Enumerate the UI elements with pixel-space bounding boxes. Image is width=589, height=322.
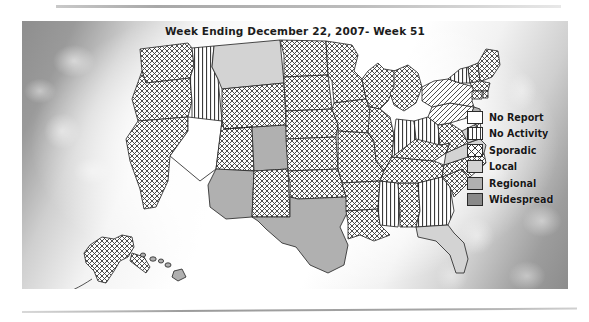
state-CT <box>472 91 482 99</box>
legend-label-regional: Regional <box>489 178 536 189</box>
state-ME <box>478 49 500 81</box>
legend-swatch-no-report <box>467 111 483 124</box>
state-WI <box>362 63 396 109</box>
influenza-activity-figure: Week Ending December 22, 2007- Week 51 <box>22 21 568 289</box>
state-AR <box>342 181 380 211</box>
state-AK-panhandle <box>130 253 150 273</box>
legend-item-local[interactable]: Local <box>467 159 553 176</box>
state-MS <box>378 181 400 227</box>
legend-label-no-activity: No Activity <box>489 128 548 139</box>
state-RI <box>483 91 488 98</box>
state-ND <box>280 40 328 77</box>
legend-item-no-report[interactable]: No Report <box>467 109 553 126</box>
page-top-rule <box>56 5 561 8</box>
state-NM <box>252 169 290 217</box>
legend-label-widespread: Widespread <box>489 194 553 205</box>
state-WA <box>140 43 194 83</box>
state-MT <box>212 40 284 89</box>
legend-swatch-sporadic <box>467 144 483 157</box>
state-MN <box>326 41 366 103</box>
legend-item-regional[interactable]: Regional <box>467 175 553 192</box>
legend-item-widespread[interactable]: Widespread <box>467 192 553 209</box>
legend-label-no-report: No Report <box>489 112 544 123</box>
legend-item-sporadic[interactable]: Sporadic <box>467 142 553 159</box>
legend-swatch-local <box>467 160 483 173</box>
page-bottom-rule <box>22 308 577 313</box>
legend-swatch-no-activity <box>467 127 483 140</box>
state-KS <box>286 137 338 171</box>
state-WY <box>222 83 286 129</box>
state-AZ <box>208 169 254 219</box>
state-MA <box>470 81 490 91</box>
legend-swatch-regional <box>467 177 483 190</box>
map-legend: No Report No Activity Sporadic Local Reg… <box>467 109 553 208</box>
legend-swatch-widespread <box>467 193 483 206</box>
state-OK <box>288 169 346 199</box>
legend-item-no-activity[interactable]: No Activity <box>467 126 553 143</box>
state-AK <box>84 235 134 283</box>
state-MI <box>390 65 422 111</box>
state-SD <box>284 75 332 111</box>
legend-label-sporadic: Sporadic <box>489 145 536 156</box>
state-FL <box>416 225 468 273</box>
state-NE <box>286 109 338 139</box>
state-IA <box>332 99 372 133</box>
state-AK-aleutians <box>58 279 92 289</box>
legend-label-local: Local <box>489 161 517 172</box>
state-AL <box>398 183 420 227</box>
